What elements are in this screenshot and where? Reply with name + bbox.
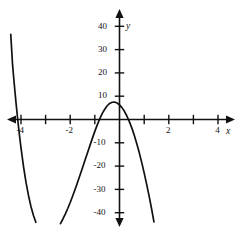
x-tick-label-2: 2 (166, 126, 171, 135)
y-axis-bottom-arrow (115, 218, 123, 227)
plot-area (0, 0, 241, 236)
y-tick-label-30: 30 (98, 45, 107, 54)
y-tick-label-40: 40 (98, 22, 107, 31)
y-tick-label-10: 10 (98, 91, 107, 100)
y-tick-label-neg30: -30 (94, 185, 106, 194)
x-tick-label-neg4: -4 (17, 126, 25, 135)
y-axis-label: y (126, 22, 130, 32)
y-tick-label-20: 20 (98, 68, 107, 77)
y-axis-top-arrow (115, 9, 123, 18)
y-tick-label-neg40: -40 (94, 208, 106, 217)
x-axis-label: x (226, 127, 230, 137)
y-tick-label-neg10: -10 (94, 138, 106, 147)
x-tick-label-neg2: -2 (66, 126, 74, 135)
y-tick-label-neg20: -20 (94, 161, 106, 170)
graph-figure: 40 30 20 10 -10 -20 -30 -40 -4 -2 2 4 y … (0, 0, 241, 236)
x-axis-left-arrow (7, 115, 16, 123)
x-tick-label-4: 4 (215, 126, 220, 135)
curve-path (11, 34, 154, 223)
x-axis-right-arrow (226, 115, 235, 123)
